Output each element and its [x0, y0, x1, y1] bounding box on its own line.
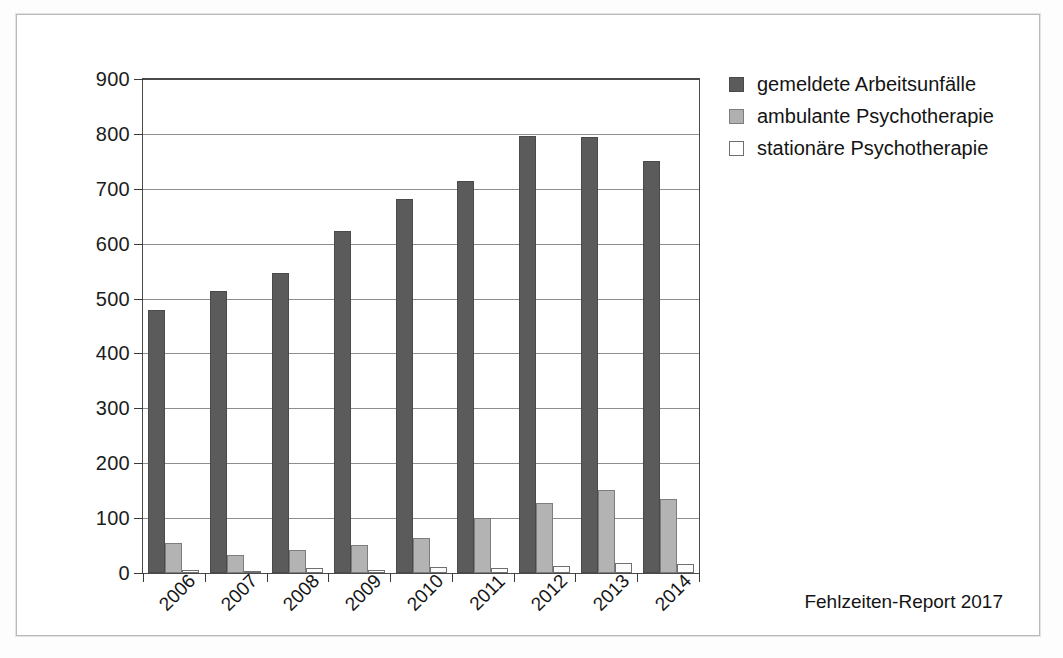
- plot-area: 0100200300400500600700800900: [142, 78, 700, 574]
- bar-2007-series-1: [227, 555, 244, 573]
- y-tick-label: 800: [96, 122, 130, 145]
- bar-2014-series-0: [643, 161, 660, 573]
- bar-2013-series-1: [598, 490, 615, 573]
- bar-2009-series-0: [334, 231, 351, 574]
- x-label-cell: 2014: [638, 581, 700, 651]
- bar-2007-series-0: [210, 291, 227, 573]
- y-tick-label: 300: [96, 397, 130, 420]
- legend-label: stationäre Psychotherapie: [757, 137, 988, 160]
- x-label-cell: 2009: [328, 581, 390, 651]
- x-tick-label-2006: 2006: [155, 570, 200, 615]
- bar-group-2006: [143, 79, 205, 573]
- x-label-cell: 2011: [452, 581, 514, 651]
- bar-group-2014: [637, 79, 699, 573]
- legend-label: gemeldete Arbeitsunfälle: [757, 73, 976, 96]
- legend-item-1[interactable]: ambulante Psychotherapie: [729, 105, 1029, 128]
- bar-group-2011: [452, 79, 514, 573]
- legend-item-2[interactable]: stationäre Psychotherapie: [729, 137, 1029, 160]
- y-tick-label: 600: [96, 232, 130, 255]
- x-tick-label-2008: 2008: [279, 570, 324, 615]
- dark-gray-square-icon: [729, 77, 744, 92]
- bar-2006-series-1: [165, 543, 182, 573]
- y-tick-mark: [134, 299, 143, 300]
- x-tick-label-2010: 2010: [403, 570, 448, 615]
- y-tick-label: 0: [119, 562, 130, 585]
- bar-group-2013: [575, 79, 637, 573]
- x-tick-label-2009: 2009: [341, 570, 386, 615]
- x-tick-label-2014: 2014: [651, 570, 696, 615]
- source-note: Fehlzeiten-Report 2017: [804, 591, 1003, 613]
- bar-group-2007: [205, 79, 267, 573]
- y-tick-mark: [134, 134, 143, 135]
- x-tick-label-2013: 2013: [589, 570, 634, 615]
- y-tick-label: 400: [96, 342, 130, 365]
- bar-2010-series-1: [413, 538, 430, 573]
- x-tick-label-2011: 2011: [465, 571, 509, 615]
- y-tick-label: 200: [96, 452, 130, 475]
- bar-2013-series-0: [581, 137, 598, 573]
- bar-2008-series-1: [289, 550, 306, 573]
- y-tick-mark: [134, 573, 143, 574]
- chart-frame: 0100200300400500600700800900 20062007200…: [16, 14, 1040, 636]
- y-tick-mark: [134, 79, 143, 80]
- bar-group-2008: [267, 79, 329, 573]
- x-label-cell: 2006: [142, 581, 204, 651]
- x-label-cell: 2007: [204, 581, 266, 651]
- chart-page: 0100200300400500600700800900 20062007200…: [0, 0, 1063, 658]
- legend-item-0[interactable]: gemeldete Arbeitsunfälle: [729, 73, 1029, 96]
- white-square-icon: [729, 141, 744, 156]
- chart-legend: gemeldete Arbeitsunfälleambulante Psycho…: [729, 73, 1029, 169]
- mid-gray-square-icon: [729, 109, 744, 124]
- bar-group-2012: [514, 79, 576, 573]
- y-tick-label: 900: [96, 68, 130, 91]
- x-tick-label-2012: 2012: [527, 570, 572, 615]
- y-tick-mark: [134, 189, 143, 190]
- y-tick-mark: [134, 244, 143, 245]
- bar-group-2010: [390, 79, 452, 573]
- x-label-cell: 2008: [266, 581, 328, 651]
- x-label-cell: 2013: [576, 581, 638, 651]
- x-tick-label-2007: 2007: [217, 570, 262, 615]
- x-label-cell: 2010: [390, 581, 452, 651]
- x-label-cell: 2012: [514, 581, 576, 651]
- x-axis-labels: 200620072008200920102011201220132014: [142, 581, 700, 651]
- y-tick-mark: [134, 408, 143, 409]
- y-tick-mark: [134, 353, 143, 354]
- bar-2012-series-0: [519, 136, 536, 573]
- bar-2014-series-1: [660, 499, 677, 573]
- y-tick-label: 100: [96, 507, 130, 530]
- y-tick-label: 500: [96, 287, 130, 310]
- bar-2008-series-0: [272, 273, 289, 573]
- bar-group-2009: [328, 79, 390, 573]
- bar-groups: [143, 79, 699, 573]
- legend-label: ambulante Psychotherapie: [757, 105, 994, 128]
- bar-2009-series-1: [351, 545, 368, 573]
- bar-2010-series-0: [396, 199, 413, 573]
- y-tick-mark: [134, 463, 143, 464]
- bar-2012-series-1: [536, 503, 553, 573]
- y-tick-mark: [134, 518, 143, 519]
- bar-2006-series-0: [148, 310, 165, 573]
- bar-2011-series-0: [457, 181, 474, 573]
- bar-2011-series-1: [474, 518, 491, 573]
- y-tick-label: 700: [96, 177, 130, 200]
